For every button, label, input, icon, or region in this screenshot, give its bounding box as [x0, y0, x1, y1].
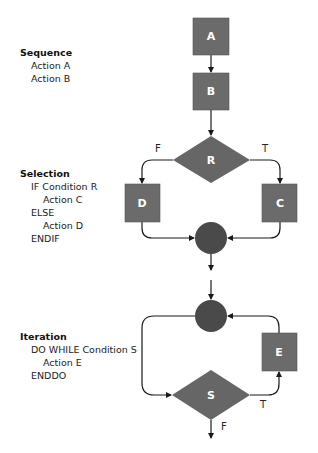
edge-junction-s [142, 316, 195, 395]
edge-s-e [250, 372, 279, 395]
edge-d-junction [142, 222, 194, 238]
edge-label-false: F [221, 421, 227, 432]
node-label: B [207, 85, 215, 98]
junction-circle [195, 300, 227, 332]
node-label: S [207, 389, 215, 402]
flowchart: A B R F T D C E S T F [0, 0, 318, 453]
process-box-e: E [262, 333, 297, 371]
process-box-b: B [193, 73, 229, 110]
node-label: R [207, 154, 216, 167]
node-label: C [276, 197, 284, 210]
process-box-c: C [262, 184, 297, 222]
edge-r-c [250, 160, 280, 183]
edge-label-true: T [261, 143, 269, 154]
junction-circle [195, 222, 227, 254]
process-box-a: A [193, 18, 229, 55]
edge-label-false: F [155, 143, 161, 154]
edge-e-junction [228, 316, 279, 333]
process-box-d: D [125, 184, 160, 222]
node-label: E [275, 346, 283, 359]
edge-r-d [142, 160, 173, 183]
node-label: A [207, 30, 216, 43]
node-label: D [137, 197, 146, 210]
decision-diamond-s: S [172, 370, 250, 420]
edge-label-true: T [259, 399, 267, 410]
decision-diamond-r: R [173, 136, 250, 183]
edge-c-junction [228, 222, 280, 238]
